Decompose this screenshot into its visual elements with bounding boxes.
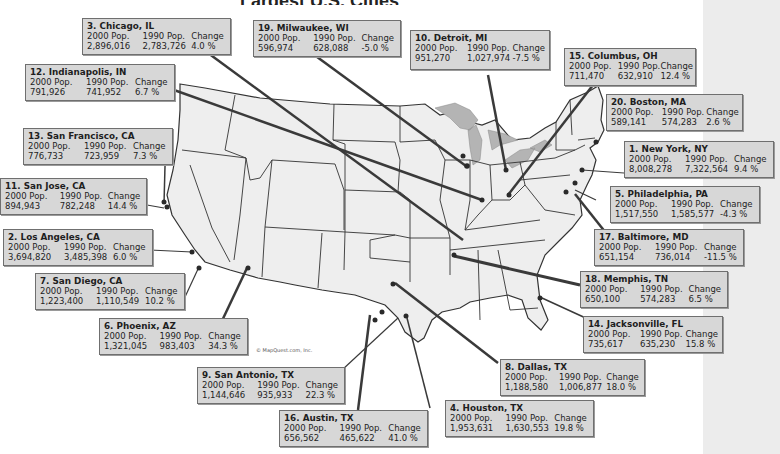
city-box-memphis: 18. Memphis, TN 2000 Pop.1990 Pop.Change… [580,271,728,308]
dot-san-jose [165,205,170,210]
city-box-austin: 16. Austin, TX 2000 Pop.1990 Pop.Change … [279,410,428,447]
dot-dallas [391,282,396,287]
dot-memphis [452,253,457,258]
dot-philadelphia [573,181,578,186]
dot-baltimore [564,190,569,195]
city-box-los-angeles: 2. Los Angeles, CA 2000 Pop.1990 Pop.Cha… [3,229,153,266]
dot-san-diego [197,266,202,271]
dot-milwaukee [461,154,466,159]
dot-new-york [580,168,585,173]
dot-boston [594,140,599,145]
city-box-dallas: 8. Dallas, TX 2000 Pop.1990 Pop.Change 1… [500,359,645,396]
city-box-philadelphia: 5. Philadelphia, PA 2000 Pop.1990 Pop.Ch… [610,186,760,223]
city-box-san-francisco: 13. San Francisco, CA 2000 Pop.1990 Pop.… [23,128,173,165]
city-box-columbus: 15. Columbus, OH 2000 Pop.1990 Pop.Chang… [564,48,696,86]
city-box-baltimore: 17. Baltimore, MD 2000 Pop.1990 Pop.Chan… [594,229,744,266]
city-box-chicago: 3. Chicago, IL 2000 Pop.1990 Pop.Change … [82,18,231,55]
city-box-san-diego: 7. San Diego, CA 2000 Pop.1990 Pop.Chang… [35,273,185,310]
dot-san-francisco [162,200,167,205]
city-box-houston: 4. Houston, TX 2000 Pop.1990 Pop.Change … [445,400,594,437]
dot-phoenix [246,266,251,271]
city-box-indianapolis: 12. Indianapolis, IN 2000 Pop.1990 Pop.C… [25,64,175,101]
city-box-san-antonio: 9. San Antonio, TX 2000 Pop.1990 Pop.Cha… [197,367,345,404]
city-box-phoenix: 6. Phoenix, AZ 2000 Pop.1990 Pop.Change … [99,318,248,355]
city-box-san-jose: 11. San Jose, CA 2000 Pop.1990 Pop.Chang… [0,178,147,215]
city-name: 3. Chicago, IL [87,21,226,31]
dot-jacksonville [538,296,543,301]
city-box-new-york: 1. New York, NY 2000 Pop.1990 Pop.Change… [624,141,774,178]
dot-columbus [507,193,512,198]
dot-san-antonio [373,318,378,323]
dot-houston [404,314,409,319]
city-box-boston: 20. Boston, MA 2000 Pop.1990 Pop.Change … [606,94,743,131]
city-box-jacksonville: 14. Jacksonville, FL 2000 Pop.1990 Pop.C… [583,316,723,353]
us-outline [167,84,604,342]
dot-austin [380,310,385,315]
map-credit: © MapQuest.com, Inc. [256,347,312,353]
dot-detroit [504,168,509,173]
city-box-milwaukee: 19. Milwaukee, WI 2000 Pop.1990 Pop.Chan… [253,20,401,57]
city-box-detroit: 10. Detroit, MI 2000 Pop.1990 Pop.Change… [410,30,550,70]
dot-los-angeles [190,250,195,255]
dot-chicago [464,163,470,169]
dot-indianapolis [480,198,485,203]
